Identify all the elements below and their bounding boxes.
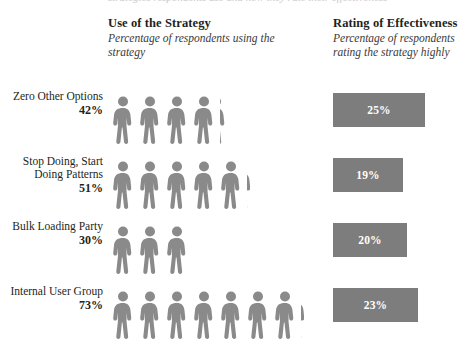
pictogram-group — [112, 216, 193, 274]
person-icon-partial — [220, 96, 225, 144]
chart-row: Internal User Group73%23% — [0, 277, 473, 339]
column-header-use: Use of the Strategy Percentage of respon… — [108, 16, 308, 59]
rating-bar-wrapper: 23% — [333, 288, 418, 322]
person-icon — [112, 161, 134, 209]
person-icon — [112, 291, 134, 339]
person-icon — [139, 161, 161, 209]
person-icon — [112, 96, 134, 144]
row-label-name: Bulk Loading Party — [0, 220, 103, 233]
row-label-name: Zero Other Options — [0, 90, 103, 103]
rating-bar-label: 25% — [367, 104, 391, 116]
rating-bar-label: 23% — [364, 299, 388, 311]
person-icon — [193, 291, 215, 339]
pictogram-group — [112, 281, 309, 339]
person-icon — [166, 226, 188, 274]
person-icon — [139, 96, 161, 144]
person-icon — [247, 291, 269, 339]
person-icon — [220, 291, 242, 339]
row-use-percent: 51% — [0, 182, 103, 195]
rating-bar-wrapper: 25% — [333, 93, 425, 127]
column-header-rating: Rating of Effectiveness Percentage of re… — [333, 16, 473, 59]
chart-row: Zero Other Options42%25% — [0, 82, 473, 144]
person-icon — [139, 291, 161, 339]
row-label: Bulk Loading Party30% — [0, 220, 103, 247]
rating-bar-label: 19% — [356, 169, 380, 181]
person-icon — [193, 96, 215, 144]
person-icon-partial — [247, 161, 250, 209]
rating-bar: 19% — [333, 158, 403, 192]
pictogram-group — [112, 86, 230, 144]
person-icon — [166, 161, 188, 209]
person-icon — [220, 161, 242, 209]
column-subtitle-rating: Percentage of respondents rating the str… — [333, 32, 473, 59]
person-icon — [166, 291, 188, 339]
row-label-name: Internal User Group — [0, 285, 103, 298]
row-label: Zero Other Options42% — [0, 90, 103, 117]
row-use-percent: 30% — [0, 234, 103, 247]
row-label: Stop Doing, StartDoing Patterns51% — [0, 155, 103, 195]
person-icon — [274, 291, 296, 339]
person-icon — [112, 226, 134, 274]
person-icon — [166, 96, 188, 144]
rating-bar: 23% — [333, 288, 418, 322]
clipped-top-text: strategies respondents use and how they … — [0, 0, 473, 9]
column-title-use: Use of the Strategy — [108, 16, 308, 31]
person-icon — [193, 161, 215, 209]
row-use-percent: 73% — [0, 299, 103, 312]
person-icon — [139, 226, 161, 274]
chart-row: Bulk Loading Party30%20% — [0, 212, 473, 274]
rating-bar-wrapper: 20% — [333, 223, 407, 257]
clipped-top-text-label: strategies respondents use and how they … — [108, 0, 387, 3]
column-subtitle-use: Percentage of respondents using the stra… — [108, 32, 308, 59]
person-icon-partial — [301, 291, 304, 339]
rating-bar: 25% — [333, 93, 425, 127]
row-label-name: Stop Doing, StartDoing Patterns — [0, 155, 103, 181]
rating-bar-wrapper: 19% — [333, 158, 403, 192]
rating-bar: 20% — [333, 223, 407, 257]
row-use-percent: 42% — [0, 104, 103, 117]
column-title-rating: Rating of Effectiveness — [333, 16, 473, 31]
chart-row: Stop Doing, StartDoing Patterns51%19% — [0, 147, 473, 209]
row-label: Internal User Group73% — [0, 285, 103, 312]
rating-bar-label: 20% — [358, 234, 382, 246]
pictogram-group — [112, 151, 255, 209]
